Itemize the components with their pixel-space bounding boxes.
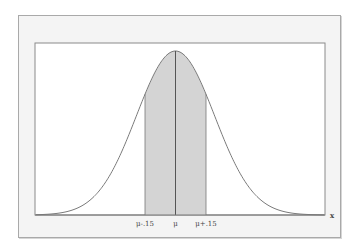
tick-label-mu: μ — [173, 220, 178, 228]
tick-label-mu-minus: μ-.15 — [136, 220, 154, 228]
normal-curve-chart: μ-.15 μ μ+.15 x — [0, 0, 356, 250]
x-axis-label: x — [330, 211, 335, 220]
tick-label-mu-plus: μ+.15 — [195, 220, 217, 228]
